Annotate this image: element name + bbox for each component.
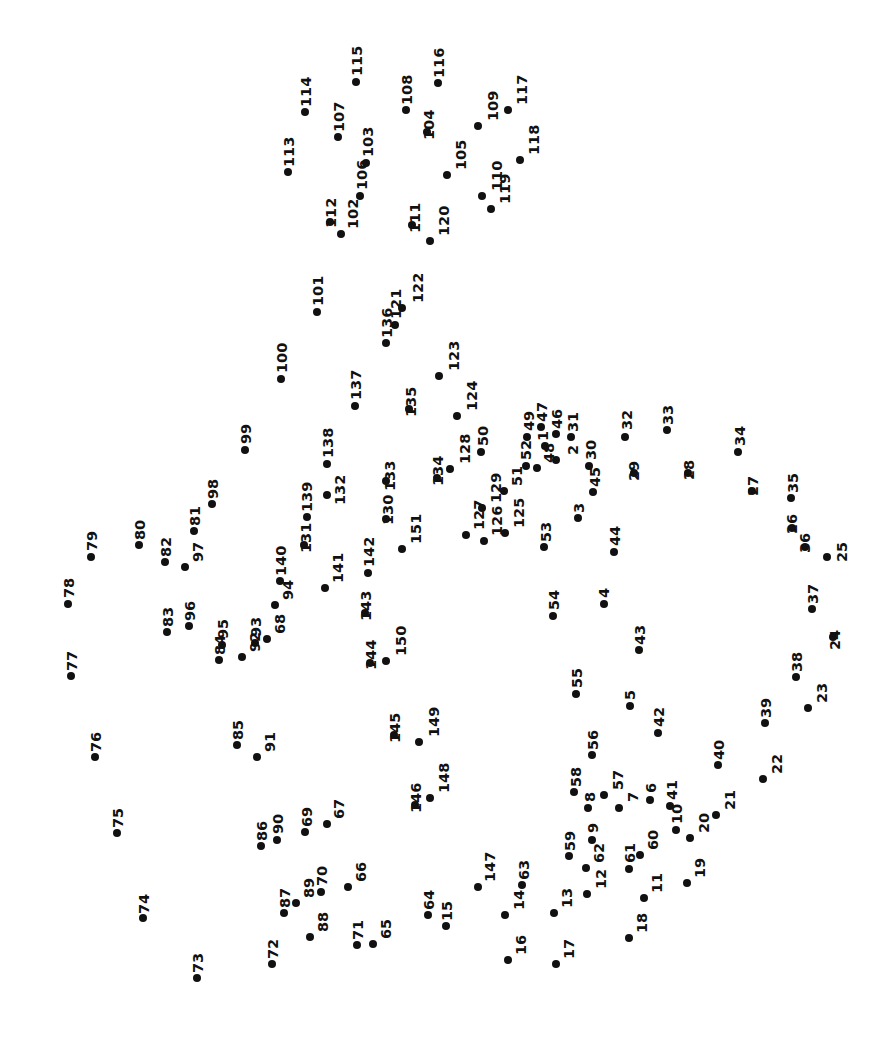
- dot-number-label: 112: [324, 198, 339, 228]
- dot-number-label: 54: [547, 590, 562, 610]
- dot-number-label: 139: [300, 482, 315, 512]
- dot-number-label: 13: [560, 888, 575, 908]
- dot-number-label: 55: [570, 668, 585, 688]
- dot-number-label: 107: [332, 102, 347, 132]
- puzzle-dot: [518, 881, 526, 889]
- dot-number-label: 88: [316, 912, 331, 932]
- puzzle-dot: [589, 488, 597, 496]
- dot-number-label: 3: [572, 503, 587, 513]
- dot-number-label: 150: [394, 626, 409, 656]
- dot-number-label: 73: [191, 953, 206, 973]
- dot-number-label: 90: [271, 814, 286, 834]
- dot-number-label: 128: [458, 434, 473, 464]
- puzzle-dot: [663, 426, 671, 434]
- dot-number-label: 124: [465, 381, 480, 411]
- dot-number-label: 1: [536, 431, 551, 441]
- puzzle-dot: [424, 911, 432, 919]
- puzzle-dot: [317, 888, 325, 896]
- dot-number-label: 42: [652, 707, 667, 727]
- puzzle-dot: [640, 894, 648, 902]
- dot-number-label: 64: [422, 890, 437, 910]
- puzzle-dot: [271, 601, 279, 609]
- puzzle-dot: [268, 960, 276, 968]
- dot-number-label: 102: [346, 199, 361, 229]
- puzzle-dot: [714, 761, 722, 769]
- dot-number-label: 82: [159, 537, 174, 557]
- dot-number-label: 98: [206, 479, 221, 499]
- dot-number-label: 18: [635, 913, 650, 933]
- puzzle-dot: [759, 775, 767, 783]
- dot-number-label: 24: [828, 630, 843, 650]
- puzzle-dot: [516, 156, 524, 164]
- dot-number-label: 140: [274, 546, 289, 576]
- puzzle-dot: [537, 423, 545, 431]
- dot-number-label: 101: [311, 276, 326, 306]
- puzzle-dot: [190, 527, 198, 535]
- dot-number-label: 138: [321, 428, 336, 458]
- dot-number-label: 135: [404, 387, 419, 417]
- puzzle-dot: [442, 922, 450, 930]
- puzzle-dot: [462, 531, 470, 539]
- dot-number-label: 66: [354, 862, 369, 882]
- dot-number-label: 91: [263, 732, 278, 752]
- puzzle-dot: [552, 430, 560, 438]
- puzzle-dot: [301, 828, 309, 836]
- dot-number-label: 143: [359, 591, 374, 621]
- dot-number-label: 105: [454, 140, 469, 170]
- puzzle-dot: [621, 433, 629, 441]
- dot-number-label: 9: [586, 823, 601, 833]
- dot-number-label: 109: [486, 91, 501, 121]
- connect-the-dots-canvas: 1234567891011121314151617181920212223242…: [0, 0, 894, 1052]
- puzzle-dot: [251, 639, 259, 647]
- dot-number-label: 34: [733, 426, 748, 446]
- dot-number-label: 151: [409, 514, 424, 544]
- puzzle-dot: [474, 122, 482, 130]
- dot-number-label: 99: [239, 424, 254, 444]
- puzzle-dot: [353, 941, 361, 949]
- dot-number-label: 39: [759, 698, 774, 718]
- puzzle-dot: [402, 106, 410, 114]
- dot-number-label: 29: [627, 461, 642, 481]
- dot-number-label: 60: [646, 830, 661, 850]
- puzzle-dot: [474, 883, 482, 891]
- puzzle-dot: [477, 448, 485, 456]
- dot-number-label: 4: [597, 588, 612, 598]
- puzzle-dot: [712, 811, 720, 819]
- puzzle-dot: [600, 791, 608, 799]
- puzzle-dot: [241, 446, 249, 454]
- dot-number-label: 52: [519, 440, 534, 460]
- puzzle-dot: [398, 304, 406, 312]
- dot-number-label: 72: [266, 939, 281, 959]
- puzzle-dot: [193, 974, 201, 982]
- dot-number-label: 130: [381, 495, 396, 525]
- puzzle-dot: [540, 543, 548, 551]
- dot-number-label: 85: [231, 720, 246, 740]
- puzzle-dot: [672, 826, 680, 834]
- puzzle-dot: [487, 205, 495, 213]
- puzzle-dot: [139, 914, 147, 922]
- dot-number-label: 97: [191, 542, 206, 562]
- dot-number-label: 68: [273, 614, 288, 634]
- puzzle-dot: [352, 78, 360, 86]
- dot-number-label: 129: [489, 473, 504, 503]
- puzzle-dot: [91, 753, 99, 761]
- dot-number-label: 81: [188, 506, 203, 526]
- puzzle-dot: [504, 956, 512, 964]
- dot-number-label: 17: [562, 939, 577, 959]
- puzzle-dot: [504, 106, 512, 114]
- puzzle-dot: [478, 192, 486, 200]
- dot-number-label: 75: [111, 808, 126, 828]
- puzzle-dot: [625, 865, 633, 873]
- dot-number-label: 5: [623, 690, 638, 700]
- puzzle-dot: [478, 504, 486, 512]
- puzzle-dot: [292, 899, 300, 907]
- dot-number-label: 63: [517, 860, 532, 880]
- dot-number-label: 22: [770, 754, 785, 774]
- dot-number-label: 132: [333, 475, 348, 505]
- dot-number-label: 144: [364, 640, 379, 670]
- dot-number-label: 43: [633, 625, 648, 645]
- puzzle-dot: [666, 802, 674, 810]
- dot-number-label: 119: [498, 174, 513, 204]
- puzzle-dot: [113, 829, 121, 837]
- dot-number-label: 19: [693, 858, 708, 878]
